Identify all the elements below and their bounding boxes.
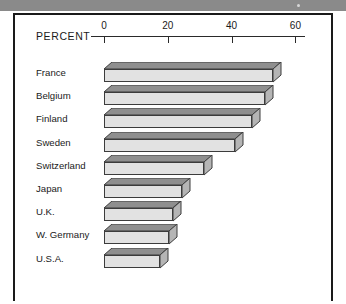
bar-side-face — [252, 108, 260, 129]
bar-side-face — [265, 85, 273, 106]
bar-front-face — [104, 162, 204, 175]
bar-side-face — [273, 62, 281, 83]
bar-front-face — [104, 69, 273, 82]
bar-front-face — [104, 139, 235, 152]
chart-page: PERCENT 0204060 FranceBelgiumFinlandSwed… — [0, 0, 346, 304]
bar-front-face — [104, 231, 169, 244]
bar-front-face — [104, 92, 265, 105]
bar-side-face — [160, 248, 168, 269]
bar — [104, 201, 183, 222]
bar-side-face — [173, 201, 181, 222]
bar — [104, 224, 179, 245]
bar — [104, 155, 214, 176]
bar-front-face — [104, 208, 173, 221]
bar-front-face — [104, 185, 182, 198]
bar — [104, 62, 283, 83]
bar — [104, 178, 192, 199]
bar-side-face — [169, 224, 177, 245]
bar-front-face — [104, 255, 160, 268]
bar — [104, 248, 170, 269]
bar-front-face — [104, 115, 252, 128]
bar-side-face — [204, 155, 212, 176]
bar — [104, 85, 275, 106]
bar — [104, 108, 262, 129]
bar-side-face — [235, 132, 243, 153]
bars-plot-area — [0, 0, 320, 288]
bar — [104, 132, 245, 153]
bar-side-face — [182, 178, 190, 199]
